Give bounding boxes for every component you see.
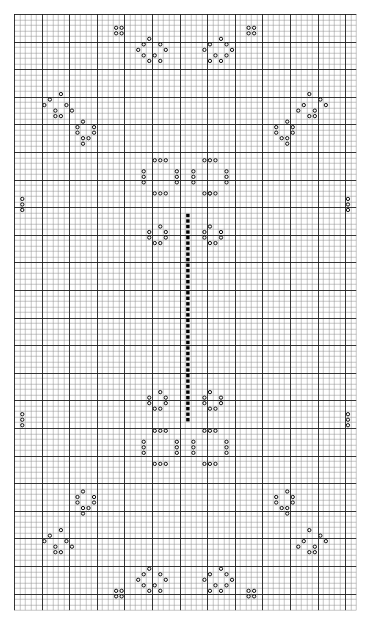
cross-stitch-chart-page: Counted Cross-Stitch Chart open circle s… — [0, 0, 370, 622]
cross-stitch-grid-canvas[interactable] — [0, 0, 370, 622]
